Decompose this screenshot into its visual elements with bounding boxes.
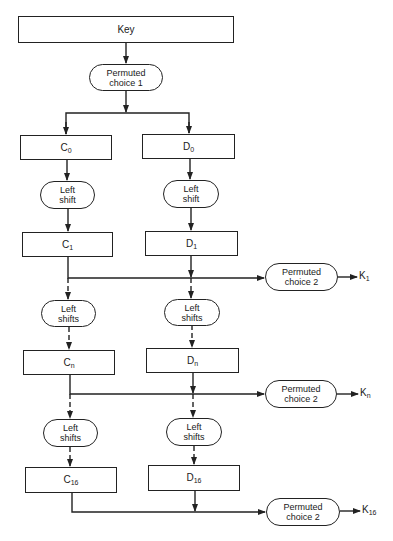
left-shifts-d-node-n: Left shifts	[164, 299, 220, 326]
shift-line2: shifts	[181, 313, 202, 323]
left-shifts-c-node-16: Left shifts	[43, 419, 98, 447]
permuted-choice-2-node-n: Permuted choice 2	[265, 380, 337, 408]
c16-box: C16	[25, 467, 117, 493]
k16-output-label: K16	[362, 504, 376, 516]
k16-base: K	[362, 504, 369, 515]
shift-line2: shifts	[58, 314, 79, 324]
pc2-line1: Permuted	[281, 384, 320, 394]
pc2-line2: choice 2	[285, 277, 319, 287]
k1-base: K	[359, 270, 366, 281]
c1-box: C1	[22, 232, 113, 257]
shift-line1: Left	[60, 185, 75, 195]
pc1-line1: Permuted	[106, 68, 145, 78]
left-shifts-c-node-n: Left shifts	[41, 300, 96, 327]
left-shift-d-node-1: Left shift	[163, 180, 219, 208]
d0-box: D0	[142, 134, 235, 159]
cn-label: C	[63, 357, 70, 368]
shift-line1: Left	[183, 184, 198, 194]
permuted-choice-1-node: Permuted choice 1	[89, 64, 163, 91]
cn-box: Cn	[23, 350, 115, 375]
key-box: Key	[18, 16, 234, 43]
pc1-line2: choice 1	[109, 78, 143, 88]
shift-line2: shifts	[183, 432, 204, 442]
k1-subscript: 1	[366, 275, 370, 282]
c0-box: C0	[20, 135, 112, 160]
d1-box: D1	[145, 231, 238, 256]
c0-label: C	[60, 142, 67, 153]
pc2-line2: choice 2	[284, 394, 318, 404]
pc2-line2: choice 2	[286, 512, 320, 522]
shift-line1: Left	[63, 423, 78, 433]
key-label: Key	[117, 24, 134, 35]
shift-line1: Left	[184, 303, 199, 313]
c1-subscript: 1	[69, 244, 73, 251]
shift-line2: shift	[59, 195, 76, 205]
c16-label: C	[63, 474, 70, 485]
dn-subscript: n	[194, 360, 198, 367]
c0-subscript: 0	[68, 147, 72, 154]
d16-label: D	[186, 472, 193, 483]
d16-subscript: 16	[194, 477, 202, 484]
pc2-line1: Permuted	[282, 267, 321, 277]
kn-subscript: n	[367, 392, 371, 399]
left-shift-c-node-1: Left shift	[40, 181, 95, 209]
k16-subscript: 16	[369, 509, 377, 516]
d1-subscript: 1	[193, 243, 197, 250]
shift-line1: Left	[186, 422, 201, 432]
kn-base: K	[360, 387, 367, 398]
permuted-choice-2-node-16: Permuted choice 2	[266, 498, 340, 526]
cn-subscript: n	[71, 362, 75, 369]
left-shifts-d-node-16: Left shifts	[166, 418, 222, 446]
shift-line2: shifts	[60, 433, 81, 443]
shift-line2: shift	[183, 194, 200, 204]
d0-subscript: 0	[190, 146, 194, 153]
permuted-choice-2-node-1: Permuted choice 2	[265, 263, 338, 291]
shift-line1: Left	[61, 304, 76, 314]
d16-box: D16	[148, 465, 240, 491]
k1-output-label: K1	[359, 270, 370, 282]
c16-subscript: 16	[71, 479, 79, 486]
dn-box: Dn	[146, 348, 239, 373]
kn-output-label: Kn	[360, 387, 371, 399]
pc2-line1: Permuted	[283, 502, 322, 512]
